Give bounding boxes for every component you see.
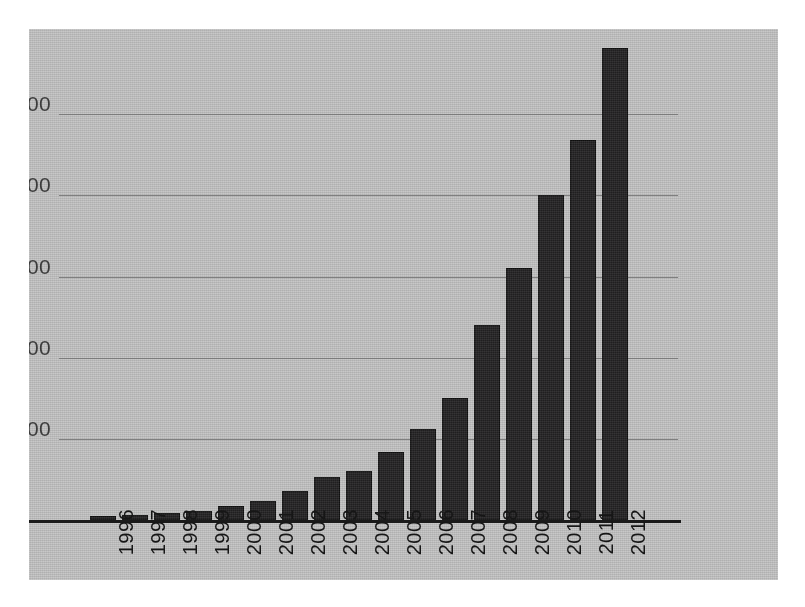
bar-texture — [474, 325, 500, 520]
bar-slot — [312, 33, 344, 520]
bar-texture — [602, 48, 628, 520]
y-axis-tick-label: 150,000 — [29, 256, 51, 277]
x-axis-tick-text: 2002 — [303, 509, 333, 556]
y-axis-tick-label: 250,000 — [29, 93, 51, 114]
bar-slot — [216, 33, 248, 520]
bar-slot — [536, 33, 568, 520]
bar-slot — [248, 33, 280, 520]
bar[interactable] — [506, 268, 532, 520]
bar-slot — [184, 33, 216, 520]
bar-slot — [568, 33, 600, 520]
x-axis-tick-text: 1997 — [143, 509, 173, 556]
bar-slot — [376, 33, 408, 520]
bar[interactable] — [602, 48, 628, 520]
bar[interactable] — [442, 398, 468, 520]
bar-slot — [88, 33, 120, 520]
x-axis-tick-text: 2010 — [559, 509, 589, 556]
x-axis-tick-text: 2000 — [239, 509, 269, 556]
x-axis-tick-text: 1996 — [111, 509, 141, 556]
bar-slot — [600, 33, 632, 520]
x-axis-tick-text: 1999 — [207, 509, 237, 556]
bar-slot — [472, 33, 504, 520]
bar-texture — [410, 429, 436, 520]
bar-slot — [280, 33, 312, 520]
bar-slot — [152, 33, 184, 520]
bar[interactable] — [474, 325, 500, 520]
y-axis-tick-label: 100,000 — [29, 337, 51, 358]
x-axis-tick-text: 2006 — [431, 509, 461, 556]
figure-canvas: 50,000100,000150,000200,000250,000 19961… — [0, 0, 805, 607]
bar-slot — [344, 33, 376, 520]
bar-texture — [538, 195, 564, 520]
x-axis-tick-text: 2003 — [335, 509, 365, 556]
x-axis-tick-text: 2001 — [271, 509, 301, 556]
bar-slot — [440, 33, 472, 520]
bar[interactable] — [410, 429, 436, 520]
x-axis-tick-text: 2008 — [495, 509, 525, 556]
y-axis-tick-label: 200,000 — [29, 174, 51, 195]
x-axis-tick-text: 1998 — [175, 509, 205, 556]
chart-plot-panel: 50,000100,000150,000200,000250,000 19961… — [29, 29, 778, 580]
plot-area: 50,000100,000150,000200,000250,000 19961… — [59, 33, 678, 520]
x-axis-tick-text: 2004 — [367, 509, 397, 556]
bar-slot — [120, 33, 152, 520]
x-axis-tick-text: 2005 — [399, 509, 429, 556]
bar-texture — [506, 268, 532, 520]
bar-texture — [442, 398, 468, 520]
x-axis-tick-text: 2011 — [591, 509, 621, 554]
bar-slot — [504, 33, 536, 520]
bar-slot — [408, 33, 440, 520]
bar[interactable] — [538, 195, 564, 520]
x-axis-tick-text: 2009 — [527, 509, 557, 556]
bars-group — [59, 33, 678, 520]
bar[interactable] — [570, 140, 596, 520]
x-axis-tick-text: 2007 — [463, 509, 493, 556]
bar-texture — [570, 140, 596, 520]
y-axis-tick-label: 50,000 — [29, 418, 51, 439]
x-axis-tick-text: 2012 — [623, 509, 653, 556]
